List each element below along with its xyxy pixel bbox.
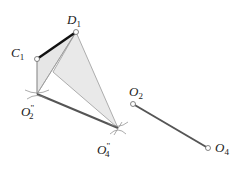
- link-o2-o4: [133, 104, 208, 148]
- label-o4: O4: [215, 141, 229, 157]
- label-o4pp: O"4: [97, 142, 110, 159]
- label-c1: C1: [11, 46, 24, 62]
- point-c1: [35, 57, 40, 62]
- label-d1: D1: [67, 13, 81, 29]
- label-o2: O2: [129, 85, 143, 101]
- point-o2: [131, 102, 136, 107]
- diagram-canvas: C1 D1 O"2 O"4 O2 O4: [0, 0, 242, 173]
- label-o2pp: O"2: [21, 104, 34, 121]
- arc-marks-o4pp: [108, 122, 128, 135]
- point-d1: [74, 30, 79, 35]
- point-o4: [206, 146, 211, 151]
- linkage-drawing: [0, 0, 242, 173]
